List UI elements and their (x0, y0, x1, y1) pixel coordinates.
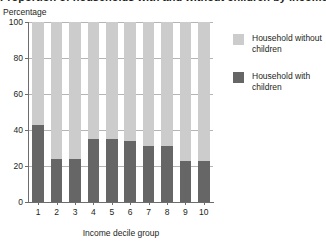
bar-segment-without-children (198, 22, 210, 161)
bar-segment-without-children (88, 22, 100, 139)
x-axis-title: Income decile group (29, 228, 213, 238)
x-tick-mark (204, 202, 205, 205)
bar-column (180, 22, 192, 202)
legend-swatch-icon (233, 72, 244, 83)
y-tick-label: 80 (14, 53, 23, 63)
bar-segment-with-children (69, 159, 81, 202)
x-tick-label: 3 (73, 207, 78, 217)
bar-column (161, 22, 173, 202)
x-tick-label: 6 (128, 207, 133, 217)
bar-segment-without-children (143, 22, 155, 146)
bar-segment-with-children (88, 139, 100, 202)
bar-segment-with-children (32, 125, 44, 202)
y-tick-label: 100 (9, 17, 23, 27)
y-tick-label: 20 (14, 161, 23, 171)
bar-segment-without-children (106, 22, 118, 139)
y-tick-label: 60 (14, 89, 23, 99)
x-tick-label: 10 (199, 207, 208, 217)
bar-column (88, 22, 100, 202)
y-tick-mark (25, 58, 29, 59)
x-tick-label: 7 (146, 207, 151, 217)
legend-item-label: Household with children (252, 71, 325, 92)
legend-swatch-icon (233, 34, 244, 45)
bar-segment-with-children (106, 139, 118, 202)
y-tick-mark (25, 22, 29, 23)
legend-item: Household with children (233, 71, 325, 92)
x-tick-label: 5 (109, 207, 114, 217)
x-tick-mark (149, 202, 150, 205)
bar-segment-with-children (51, 159, 63, 202)
x-tick-mark (57, 202, 58, 205)
y-tick-label: 0 (18, 197, 23, 207)
bar-segment-without-children (51, 22, 63, 159)
bar-segment-with-children (143, 146, 155, 202)
bar-segment-without-children (124, 22, 136, 141)
x-tick-mark (93, 202, 94, 205)
bar-segment-without-children (32, 22, 44, 125)
y-tick-mark (25, 94, 29, 95)
legend-item: Household without children (233, 33, 325, 54)
chart-title: Proportion of households with and withou… (0, 0, 326, 5)
bar-segment-without-children (69, 22, 81, 159)
bar-column (51, 22, 63, 202)
bar-segment-with-children (180, 161, 192, 202)
y-tick-mark (25, 130, 29, 131)
x-tick-label: 4 (91, 207, 96, 217)
bar-column (143, 22, 155, 202)
y-tick-mark (25, 166, 29, 167)
x-tick-mark (38, 202, 39, 205)
plot-area: 020406080100 12345678910 (29, 22, 213, 202)
bar-column (124, 22, 136, 202)
bar-segment-without-children (180, 22, 192, 161)
x-tick-label: 9 (183, 207, 188, 217)
bar-column (198, 22, 210, 202)
bar-segment-without-children (161, 22, 173, 146)
bar-segment-with-children (124, 141, 136, 202)
x-tick-mark (185, 202, 186, 205)
legend-item-label: Household without children (252, 33, 325, 54)
y-axis-title: Percentage (3, 7, 46, 17)
x-tick-mark (112, 202, 113, 205)
y-axis-line (28, 22, 29, 203)
x-tick-label: 8 (165, 207, 170, 217)
x-tick-label: 2 (54, 207, 59, 217)
y-tick-label: 40 (14, 125, 23, 135)
bar-column (106, 22, 118, 202)
x-tick-mark (75, 202, 76, 205)
bar-column (69, 22, 81, 202)
bar-column (32, 22, 44, 202)
x-tick-mark (130, 202, 131, 205)
chart-legend: Household without childrenHousehold with… (233, 33, 325, 109)
x-tick-mark (167, 202, 168, 205)
bar-segment-with-children (161, 146, 173, 202)
y-tick-mark (25, 202, 29, 203)
bar-segment-with-children (198, 161, 210, 202)
x-tick-label: 1 (36, 207, 41, 217)
